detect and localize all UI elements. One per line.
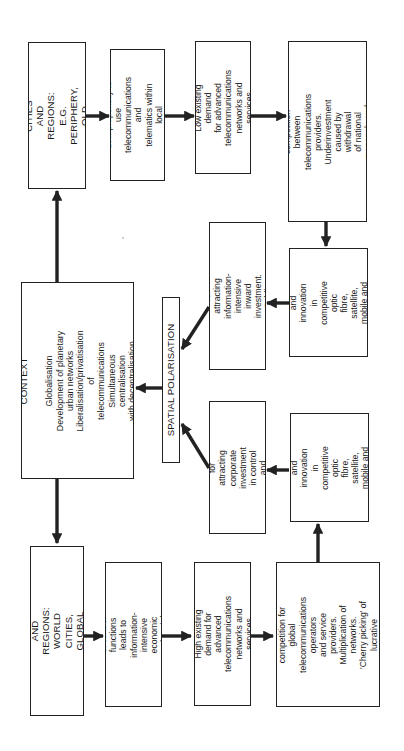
- node-competitive-disadvantage: Competitive disadvantage for attracting …: [209, 222, 266, 370]
- node-low-propensity: Low propensity to use telecommunications…: [110, 49, 165, 181]
- node-low-existing-demand: Low existing demand for advanced telecom…: [195, 41, 251, 174]
- node-hot-spot-status: 'Hot spot status': intense competition f…: [276, 562, 380, 707]
- node-competitive-advantage: Competitive advantage for attracting cor…: [209, 401, 266, 534]
- node-label: Lack of investment and innovation in com…: [289, 281, 368, 324]
- node-centralisation: Centralisation of control functions lead…: [105, 562, 162, 707]
- node-label: Low existing demand for advanced telecom…: [195, 70, 251, 146]
- node-label: Centralisation of control functions lead…: [105, 608, 162, 661]
- node-context: CONTEXT Globalisation Development of pla…: [21, 282, 134, 479]
- node-label: LESS-FAVOURED CITIES AND REGIONS: E.G. P…: [28, 87, 86, 145]
- node-label: 'Hot spot status': intense competition f…: [276, 597, 380, 673]
- context-items: Globalisation Development of planetary u…: [44, 330, 134, 431]
- node-lack-of-investment: Lack of investment and innovation in com…: [289, 248, 368, 357]
- node-label: Competitive advantage for attracting cor…: [209, 445, 266, 490]
- node-label: Low propensity to use telecommunications…: [110, 77, 165, 153]
- scan-speck: [122, 237, 124, 239]
- node-favoured-cities: FAVOURED CITIES AND REGIONS: WORLD CITIE…: [30, 546, 84, 716]
- node-high-existing-demand: High existing demand for advanced teleco…: [194, 562, 251, 706]
- node-heavy-investment: Heavy investment and innovation in compe…: [290, 413, 369, 522]
- node-label: Competitive disadvantage for attracting …: [209, 270, 266, 321]
- arrow-disadvantage-to-polarisation: [182, 307, 209, 349]
- context-title: CONTEXT: [21, 330, 29, 431]
- node-label: 'Cold spot' status: lack of competition …: [288, 94, 367, 170]
- node-label: Heavy investment and innovation in compe…: [290, 446, 369, 489]
- node-context-text: CONTEXT Globalisation Development of pla…: [21, 330, 134, 431]
- arrow-advantage-to-polarisation: [182, 424, 209, 468]
- node-label: High existing demand for advanced teleco…: [194, 596, 251, 672]
- node-spatial-polarisation: SPATIAL POLARISATION: [162, 297, 180, 463]
- node-label: FAVOURED CITIES AND REGIONS: WORLD CITIE…: [30, 605, 84, 658]
- node-cold-spot-status: 'Cold spot' status: lack of competition …: [288, 41, 367, 222]
- node-less-favoured-cities: LESS-FAVOURED CITIES AND REGIONS: E.G. P…: [28, 42, 86, 189]
- node-label: SPATIAL POLARISATION: [165, 324, 176, 437]
